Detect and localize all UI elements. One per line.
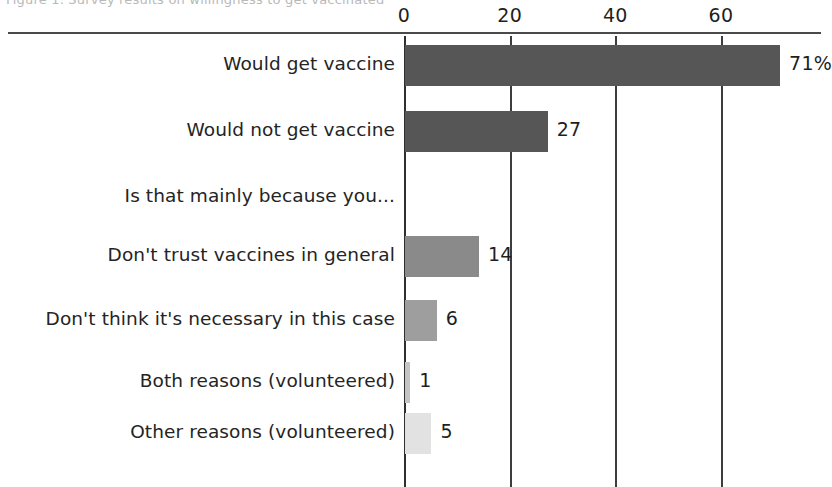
- chart-bar-row: Don't think it's necessary in this case6: [0, 299, 829, 341]
- category-label: Would not get vaccine: [187, 119, 395, 140]
- category-label: Is that mainly because you...: [125, 185, 395, 206]
- category-label: Other reasons (volunteered): [130, 421, 395, 442]
- x-axis-tick-labels: 0204060: [0, 0, 829, 33]
- x-axis-tick-0: 0: [398, 4, 410, 26]
- bar-value-label: 71%: [789, 52, 832, 74]
- chart-bar-row: Would get vaccine71%: [0, 44, 829, 86]
- bar-value-label: 6: [446, 307, 458, 329]
- x-axis-tick-20: 20: [497, 4, 522, 26]
- chart-bar-row: Both reasons (volunteered)1: [0, 361, 829, 403]
- category-label: Would get vaccine: [223, 53, 395, 74]
- chart-bar-row: Would not get vaccine27: [0, 110, 829, 152]
- bar-value-label: 1: [419, 369, 431, 391]
- category-label: Don't trust vaccines in general: [108, 244, 395, 265]
- bar: [405, 300, 437, 341]
- x-axis-tick-40: 40: [603, 4, 628, 26]
- chart-bar-row: Other reasons (volunteered)5: [0, 412, 829, 454]
- bar-value-label: 27: [557, 118, 582, 140]
- plot-area: Would get vaccine71%Would not get vaccin…: [0, 36, 829, 487]
- bar: [405, 362, 410, 403]
- chart-subheading-row: Is that mainly because you...: [0, 176, 829, 218]
- bar: [405, 45, 780, 86]
- bar-value-label: 14: [488, 243, 513, 265]
- bar: [405, 413, 431, 454]
- x-axis-tick-60: 60: [709, 4, 734, 26]
- bar-value-label: 5: [440, 420, 452, 442]
- category-label: Don't think it's necessary in this case: [46, 308, 395, 329]
- bar: [405, 111, 548, 152]
- category-label: Both reasons (volunteered): [140, 370, 395, 391]
- bar: [405, 236, 479, 277]
- chart-bar-row: Don't trust vaccines in general14: [0, 235, 829, 277]
- top-axis-rule: [8, 32, 821, 34]
